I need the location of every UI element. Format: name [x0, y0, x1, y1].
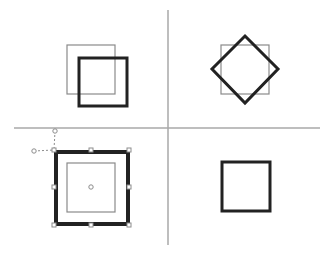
resize-handle[interactable]: [127, 185, 131, 189]
rotate-handle[interactable]: [53, 129, 57, 133]
skew-handle[interactable]: [32, 149, 36, 153]
transformed-square: [222, 162, 270, 211]
resize-handle[interactable]: [52, 185, 56, 189]
center-point-handle[interactable]: [89, 185, 93, 189]
quadrant-result: [222, 162, 270, 211]
quadrant-scale-selected: [32, 129, 131, 227]
quadrant-translate: [67, 45, 127, 106]
resize-handle[interactable]: [52, 148, 56, 152]
resize-handle[interactable]: [127, 223, 131, 227]
resize-handle[interactable]: [127, 148, 131, 152]
transformed-square: [79, 58, 127, 106]
quadrant-rotate: [212, 36, 278, 103]
rotated-square: [212, 36, 278, 103]
resize-handle[interactable]: [52, 223, 56, 227]
original-square: [67, 45, 115, 94]
resize-handle[interactable]: [89, 223, 93, 227]
resize-handle[interactable]: [89, 148, 93, 152]
diagram-canvas: [0, 0, 334, 254]
skew-handle-connector: [34, 150, 54, 151]
rotate-handle-connector: [54, 131, 55, 150]
quadrant-dividers: [14, 10, 320, 245]
